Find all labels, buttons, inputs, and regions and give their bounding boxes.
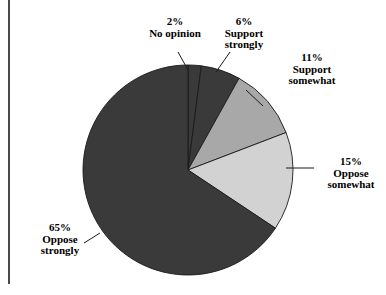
slice-percent-oppose-somewhat: 15% [318,156,384,168]
pie-chart-figure: 2% No opinion 6% Support strongly 11% Su… [0,0,386,295]
slice-name-support-strongly-line2: strongly [212,39,276,51]
slice-name-oppose-somewhat-line2: somewhat [318,179,384,191]
slice-percent-support-strongly: 6% [212,16,276,28]
slice-percent-oppose-strongly: 65% [24,222,96,234]
slice-percent-support-somewhat: 11% [266,52,358,64]
slice-name-oppose-strongly-line2: strongly [24,245,96,257]
slice-label-oppose-strongly: 65% Oppose strongly [24,222,96,257]
pie-slices-group [83,65,293,275]
slice-label-support-somewhat: 11% Support somewhat [266,52,358,87]
slice-name-no-opinion-line1: No opinion [136,28,214,40]
slice-percent-no-opinion: 2% [136,16,214,28]
leader-line-support-strongly [216,52,230,72]
slice-label-support-strongly: 6% Support strongly [212,16,276,51]
slice-label-no-opinion: 2% No opinion [136,16,214,39]
slice-label-oppose-somewhat: 15% Oppose somewhat [318,156,384,191]
slice-name-support-somewhat-line2: somewhat [266,75,358,87]
